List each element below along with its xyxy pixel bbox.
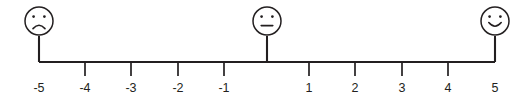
happy-face-icon[interactable] xyxy=(481,7,509,35)
sad-face-eye-right xyxy=(43,15,46,18)
rating-scale-canvas: -5 -4 -3 -2 -1 1 2 3 4 5 xyxy=(0,0,528,99)
tick-label-minus-4: -4 xyxy=(79,81,90,95)
tick-label-minus-2: -2 xyxy=(172,81,183,95)
tick-label-1: 1 xyxy=(306,81,313,95)
happy-face-eye-right xyxy=(499,15,502,18)
happy-face-outline xyxy=(481,7,509,35)
neutral-face-icon[interactable] xyxy=(253,7,281,35)
tick-label-2: 2 xyxy=(352,81,359,95)
tick-label-minus-5: -5 xyxy=(33,81,44,95)
neutral-face-outline xyxy=(253,7,281,35)
tick-label-4: 4 xyxy=(445,81,452,95)
neutral-face-eye-right xyxy=(271,15,274,18)
sad-face-eye-left xyxy=(32,15,35,18)
rating-scale-figure: -5 -4 -3 -2 -1 1 2 3 4 5 xyxy=(0,0,528,99)
happy-face-eye-left xyxy=(488,15,491,18)
tick-label-minus-1: -1 xyxy=(218,81,229,95)
tick-label-3: 3 xyxy=(399,81,406,95)
sad-face-outline xyxy=(25,7,53,35)
tick-label-minus-3: -3 xyxy=(125,81,136,95)
tick-label-5: 5 xyxy=(492,81,499,95)
sad-face-icon[interactable] xyxy=(25,7,53,35)
neutral-face-eye-left xyxy=(260,15,263,18)
